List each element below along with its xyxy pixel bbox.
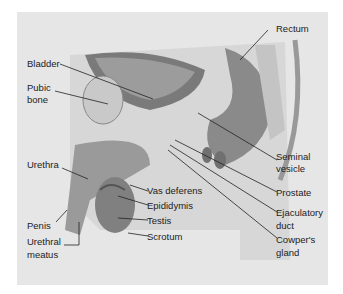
label-testis: Testis xyxy=(147,215,171,226)
label-bladder: Bladder xyxy=(27,58,60,69)
label-penis: Penis xyxy=(27,220,51,231)
label-ejaculatory-1: Ejaculatory xyxy=(276,207,323,218)
label-scrotum: Scrotum xyxy=(147,231,182,242)
label-rectum: Rectum xyxy=(276,23,309,34)
anatomy-figure: Rectum Bladder Pubic bone Urethra Semina… xyxy=(0,0,343,294)
label-seminal-1: Seminal xyxy=(276,151,310,162)
label-ejaculatory-2: duct xyxy=(276,220,294,231)
label-prostate: Prostate xyxy=(276,187,311,198)
label-cowpers-1: Cowper's xyxy=(276,234,315,245)
label-urethra: Urethra xyxy=(27,159,59,170)
label-urethral-meatus-1: Urethral xyxy=(27,236,61,247)
label-vas-deferens: Vas deferens xyxy=(147,185,202,196)
label-urethral-meatus-2: meatus xyxy=(27,249,58,260)
label-pubic-bone-2: bone xyxy=(27,94,48,105)
label-seminal-2: vesicle xyxy=(276,163,305,174)
label-pubic-bone-1: Pubic xyxy=(27,82,51,93)
label-epididymis: Epididymis xyxy=(147,200,193,211)
label-cowpers-2: gland xyxy=(276,247,299,258)
